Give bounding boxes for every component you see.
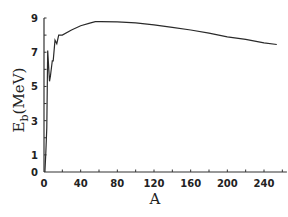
x-tick-label: 80	[110, 178, 124, 189]
axes	[44, 18, 287, 172]
y-tick-label: 7	[31, 47, 38, 58]
binding-energy-chart: 04080120160200240013579 A Eb(MeV)	[0, 0, 288, 217]
x-tick-label: 120	[144, 178, 165, 189]
x-tick-label: 200	[217, 178, 238, 189]
x-tick-label: 40	[74, 178, 88, 189]
y-tick-label: 1	[31, 150, 38, 161]
x-axis-label: A	[149, 190, 161, 208]
y-tick-label: 3	[31, 116, 38, 127]
y-tick-label: 0	[31, 167, 38, 178]
data-line	[45, 22, 277, 172]
x-tick-label: 160	[180, 178, 201, 189]
y-tick-label: 9	[31, 13, 38, 24]
y-axis-label: Eb(MeV)	[10, 68, 31, 133]
x-tick-label: 0	[41, 178, 48, 189]
y-tick-label: 5	[31, 81, 38, 92]
x-tick-label: 240	[254, 178, 275, 189]
